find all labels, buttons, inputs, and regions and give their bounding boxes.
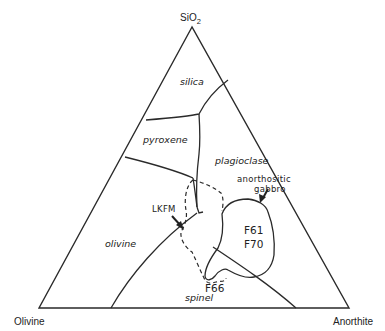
pyroxene-plagioclase-boundary [197, 114, 200, 207]
junction-tick [197, 207, 203, 213]
label-lkfm: LKFM [152, 204, 176, 214]
lkfm-dashed-outline [181, 180, 226, 283]
sample-label-f70: F70 [244, 238, 263, 250]
vertex-label-olivine: Olivine [14, 316, 45, 327]
pyroxene-olivine-boundary [125, 157, 193, 178]
gabbro-outline [205, 199, 274, 280]
ternary-diagram: SiO2 Olivine Anorthite silica pyroxene p… [0, 0, 385, 331]
field-label-plagioclase: plagioclase [214, 155, 269, 166]
triangle-outline [39, 27, 349, 308]
label-anorthositic: anorthositic [237, 174, 291, 184]
field-label-pyroxene: pyroxene [142, 134, 188, 145]
vertex-label-sio2: SiO2 [180, 12, 201, 26]
field-label-olivine: olivine [105, 238, 136, 249]
label-gabbro: gabbro [254, 184, 286, 194]
field-label-silica: silica [180, 76, 204, 87]
sample-label-f66: F66 [205, 282, 225, 294]
sample-label-f61: F61 [244, 224, 263, 236]
vertex-label-anorthite: Anorthite [333, 316, 373, 327]
